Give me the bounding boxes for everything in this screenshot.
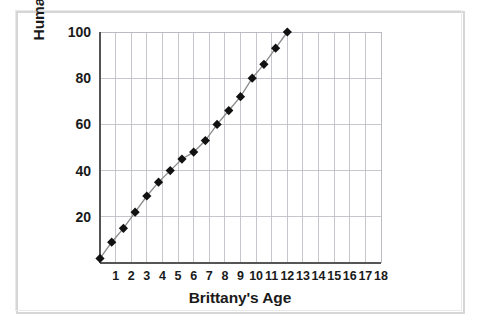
- x-tick-label: 10: [249, 269, 263, 283]
- data-point-marker: [271, 44, 280, 53]
- x-tick-label: 2: [128, 269, 135, 283]
- y-tick-label: 80: [75, 70, 91, 86]
- data-point-marker: [95, 254, 104, 263]
- x-tick-label: 6: [190, 269, 197, 283]
- grid-lines: [100, 32, 381, 263]
- x-tick-label: 3: [143, 269, 150, 283]
- x-tick-label: 13: [296, 269, 310, 283]
- x-tick-label: 1: [112, 269, 119, 283]
- x-tick-label: 18: [374, 269, 388, 283]
- figure-canvas: Human's Age Brittany's Age 20406080100 1…: [0, 0, 480, 330]
- y-tick-label: 20: [75, 209, 91, 225]
- x-tick-label: 15: [327, 269, 341, 283]
- x-tick-label: 8: [221, 269, 228, 283]
- y-tick-label: 60: [75, 116, 91, 132]
- data-point-marker: [131, 208, 140, 217]
- x-tick-label: 14: [312, 269, 326, 283]
- y-tick-label: 40: [75, 163, 91, 179]
- chart-svg: 20406080100 123456789101112131415161718: [0, 0, 480, 330]
- x-tick-label: 7: [206, 269, 213, 283]
- data-point-marker: [283, 27, 292, 36]
- x-tick-label: 5: [175, 269, 182, 283]
- x-tick-labels: 123456789101112131415161718: [112, 269, 388, 283]
- x-tick-label: 16: [343, 269, 357, 283]
- y-tick-labels: 20406080100: [68, 24, 92, 225]
- x-tick-label: 11: [265, 269, 278, 283]
- x-tick-label: 9: [237, 269, 244, 283]
- x-tick-label: 17: [358, 269, 372, 283]
- x-tick-label: 12: [280, 269, 294, 283]
- y-tick-label: 100: [68, 24, 92, 40]
- plot-area: 20406080100 123456789101112131415161718: [0, 0, 480, 330]
- x-tick-label: 4: [159, 269, 166, 283]
